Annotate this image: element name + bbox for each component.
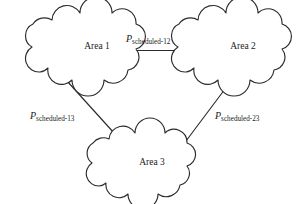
node-label-area3: Area 3: [139, 157, 165, 167]
link-symbol-12: P: [125, 33, 132, 44]
link-symbol-13: P: [29, 110, 36, 121]
network-diagram-figure: Area 1 Area 2 Area 3 Pscheduled-12 Psche…: [0, 0, 303, 204]
link-subscript-23: scheduled-23: [221, 115, 260, 123]
link-subscript-13: scheduled-13: [36, 115, 75, 123]
link-label-symbol-12: Pscheduled-12: [125, 33, 171, 46]
link-symbol-23: P: [214, 110, 221, 121]
link-subscript-12: scheduled-12: [132, 38, 171, 46]
node-label-area1: Area 1: [84, 41, 110, 51]
link-label-scheduled-13: Pscheduled-13: [29, 110, 75, 123]
diagram-canvas: Area 1 Area 2 Area 3 Pscheduled-12 Psche…: [0, 0, 303, 204]
node-area3[interactable]: Area 3: [86, 118, 195, 204]
link-label-symbol-13: Pscheduled-13: [29, 110, 75, 123]
link-label-scheduled-23: Pscheduled-23: [214, 110, 260, 123]
link-label-symbol-23: Pscheduled-23: [214, 110, 260, 123]
node-area1[interactable]: Area 1: [26, 0, 146, 96]
node-label-area2: Area 2: [230, 41, 256, 51]
link-label-scheduled-12: Pscheduled-12: [125, 33, 171, 46]
node-area2[interactable]: Area 2: [172, 0, 292, 96]
